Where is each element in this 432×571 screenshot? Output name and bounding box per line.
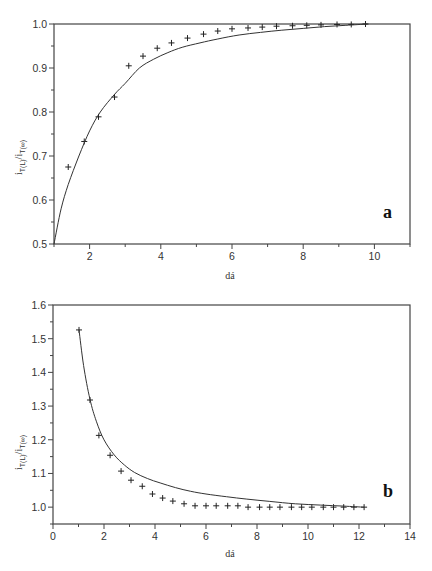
- y-axis-title-a: iT(L)/iT(∞): [13, 140, 27, 175]
- data-point-experimental: [65, 164, 71, 170]
- data-point-experimental: [257, 504, 263, 510]
- x-tick-label: 10: [369, 250, 381, 262]
- data-point-experimental: [259, 24, 265, 30]
- data-point-experimental: [126, 63, 132, 69]
- series-line-theory: [54, 24, 367, 244]
- y-axis-title-b: iT(L)/iT(∞): [13, 435, 27, 470]
- y-tick-label: 1.1: [31, 467, 46, 479]
- data-point-experimental: [331, 504, 337, 510]
- x-tick-label: 4: [152, 530, 158, 542]
- data-point-experimental: [341, 504, 347, 510]
- data-point-experimental: [149, 491, 155, 497]
- data-point-experimental: [154, 45, 160, 51]
- data-point-experimental: [170, 498, 176, 504]
- data-point-experimental: [203, 503, 209, 509]
- y-tick-label: 1.2: [31, 434, 46, 446]
- x-axis-title-a: dá: [225, 270, 235, 281]
- data-point-experimental: [334, 21, 340, 27]
- data-point-experimental: [304, 22, 310, 28]
- chart-a-marks: 2468100.50.60.70.80.91.0: [32, 18, 410, 262]
- data-point-experimental: [267, 504, 273, 510]
- y-tick-label: 1.3: [31, 400, 46, 412]
- x-tick-label: 2: [87, 250, 93, 262]
- chart-panel-a: 2468100.50.60.70.80.91.0 a dá iT(L)/iT(∞…: [13, 18, 410, 281]
- data-point-experimental: [299, 504, 305, 510]
- x-tick-label: 4: [158, 250, 164, 262]
- data-point-experimental: [185, 35, 191, 41]
- data-point-experimental: [160, 495, 166, 501]
- x-tick-label: 10: [302, 530, 314, 542]
- y-tick-label: 1.5: [31, 333, 46, 345]
- x-tick-label: 6: [229, 250, 235, 262]
- x-tick-label: 8: [300, 250, 306, 262]
- data-point-experimental: [245, 504, 251, 510]
- plot-frame: [53, 305, 410, 524]
- x-tick-label: 8: [254, 530, 260, 542]
- x-axis-title-b: dá: [225, 548, 235, 559]
- chart-b-marks: 024681012141.01.11.21.31.41.51.6: [31, 299, 416, 542]
- data-point-experimental: [225, 503, 231, 509]
- y-tick-label: 0.5: [32, 238, 47, 250]
- x-tick-label: 14: [404, 530, 416, 542]
- y-tick-label: 1.6: [31, 299, 46, 311]
- series-line-theory: [79, 330, 364, 507]
- x-tick-label: 2: [101, 530, 107, 542]
- data-point-experimental: [201, 31, 207, 37]
- data-point-experimental: [139, 483, 145, 489]
- svg-text:iT(L)/iT(∞): iT(L)/iT(∞): [13, 140, 27, 175]
- data-point-experimental: [192, 503, 198, 509]
- data-point-experimental: [229, 26, 235, 32]
- chart-panel-b: 024681012141.01.11.21.31.41.51.6 b dá iT…: [13, 299, 416, 559]
- data-point-experimental: [288, 504, 294, 510]
- data-point-experimental: [118, 468, 124, 474]
- data-point-experimental: [213, 503, 219, 509]
- data-point-experimental: [245, 25, 251, 31]
- y-tick-label: 0.8: [32, 106, 47, 118]
- panel-label-a: a: [383, 202, 392, 222]
- y-tick-label: 0.9: [32, 62, 47, 74]
- data-point-experimental: [277, 504, 283, 510]
- data-point-experimental: [215, 28, 221, 34]
- data-point-experimental: [181, 501, 187, 507]
- svg-text:iT(L)/iT(∞): iT(L)/iT(∞): [13, 435, 27, 470]
- y-tick-label: 1.4: [31, 366, 46, 378]
- x-tick-label: 6: [203, 530, 209, 542]
- y-tick-label: 1.0: [31, 501, 46, 513]
- data-point-experimental: [168, 40, 174, 46]
- data-point-experimental: [140, 53, 146, 59]
- x-tick-label: 12: [353, 530, 365, 542]
- y-tick-label: 0.6: [32, 194, 47, 206]
- y-tick-label: 0.7: [32, 150, 47, 162]
- data-point-experimental: [235, 503, 241, 509]
- plot-frame: [54, 24, 410, 244]
- figure: 2468100.50.60.70.80.91.0 a dá iT(L)/iT(∞…: [0, 0, 432, 571]
- y-tick-label: 1.0: [32, 18, 47, 30]
- panel-label-b: b: [383, 481, 393, 501]
- x-tick-label: 0: [50, 530, 56, 542]
- data-point-experimental: [128, 477, 134, 483]
